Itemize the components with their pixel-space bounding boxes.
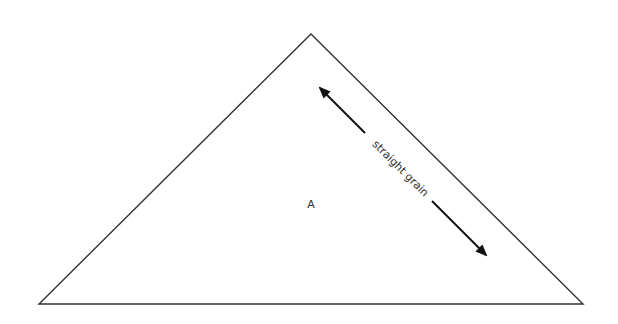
- grainline-label: straight grain: [370, 138, 432, 200]
- pattern-diagram: straight grain A: [0, 0, 618, 324]
- piece-label: A: [307, 198, 315, 211]
- pattern-piece-outline: [39, 34, 583, 304]
